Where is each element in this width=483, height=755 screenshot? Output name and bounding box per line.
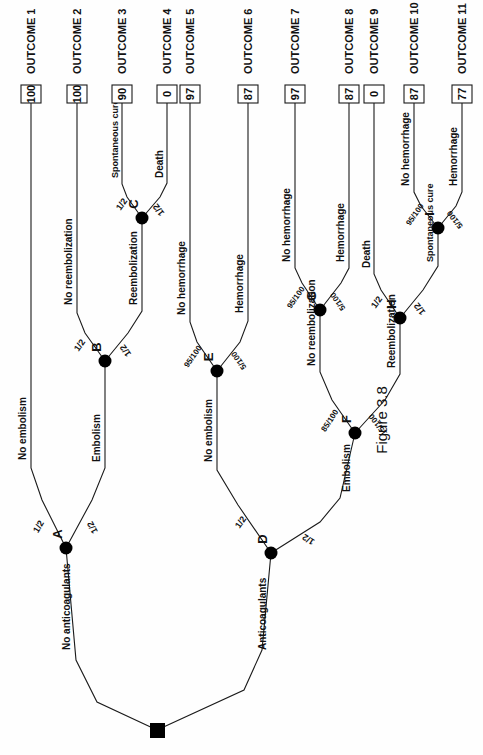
outcome-name: OUTCOME 7 (289, 9, 301, 74)
prob-H-left: 1/2 (369, 294, 384, 310)
branch-label-B-left: No reembolization (63, 218, 74, 305)
prob-D-right: 1/2 (300, 532, 316, 547)
prob-C-left: 1/2 (114, 196, 129, 212)
edge-root-A (66, 548, 157, 730)
outcome-value: 100 (25, 85, 37, 103)
outcome-name: OUTCOME 9 (368, 9, 380, 74)
edge-B-out2 (77, 103, 105, 361)
edge-E-out5 (190, 103, 217, 371)
node-label-C: C (126, 199, 141, 209)
decision-tree-figure: A B C D E F G H I No anticoagulants Anti… (0, 0, 483, 755)
prob-H-right: 1/2 (412, 301, 428, 317)
prob-B-right: 1/2 (118, 343, 133, 359)
tree-canvas: A B C D E F G H I No anticoagulants Anti… (0, 0, 483, 755)
branch-label-C-left: Spontaneous cure (110, 99, 120, 178)
node-label-F: F (339, 415, 354, 423)
outcome-value: 100 (71, 85, 83, 103)
outcome-name: OUTCOME 5 (184, 9, 196, 74)
outcome-name: OUTCOME 3 (116, 9, 128, 74)
branch-label-B-right: Reembolization (128, 231, 139, 305)
outcome-value: 90 (116, 88, 128, 100)
edge-G-out7 (295, 103, 320, 310)
edge-root-D (157, 553, 271, 730)
branch-label-D-left: No embolism (203, 399, 214, 462)
outcome-value: 97 (289, 88, 301, 100)
outcome-value: 87 (408, 88, 420, 100)
prob-F-left: 85/100 (319, 407, 340, 433)
prob-G-right: 5/100 (328, 290, 347, 312)
chance-node-B[interactable] (99, 355, 112, 368)
nodes-group (60, 212, 445, 739)
branch-label-E-right: Hemorrhage (234, 254, 245, 313)
outcome-value: 97 (184, 88, 196, 100)
outcome-names-group: OUTCOME 1 OUTCOME 2 OUTCOME 3 OUTCOME 4 … (25, 2, 468, 74)
outcome-name: OUTCOME 4 (161, 8, 173, 74)
branch-label-C-right: Death (154, 150, 165, 178)
chance-node-E[interactable] (211, 365, 224, 378)
figure-caption: Figure 3.8 (373, 386, 390, 454)
edge-E-out6 (217, 103, 248, 371)
prob-B-left: 1/2 (72, 337, 87, 353)
edge-A-out1 (31, 103, 66, 548)
prob-A-right: 1/2 (85, 520, 100, 536)
prob-A-left: 1/2 (31, 519, 46, 535)
outcome-name: OUTCOME 2 (71, 9, 83, 74)
branch-label-G-right: Hemorrhage (335, 203, 346, 262)
outcome-value: 0 (368, 91, 380, 97)
branch-label-A-left: No embolism (17, 397, 28, 460)
chance-node-A[interactable] (60, 542, 73, 555)
branch-label-E-left: No hemorrhage (176, 241, 187, 315)
branch-label-D-right: Embolism (341, 444, 352, 492)
node-label-E: E (201, 352, 216, 361)
node-label-D: D (255, 534, 270, 543)
node-label-A: A (50, 529, 65, 539)
outcome-name: OUTCOME 11 (456, 3, 468, 74)
outcome-name: OUTCOME 8 (343, 9, 355, 74)
branch-label-I-right: Hemorrhage (448, 127, 459, 186)
outcome-value: 77 (456, 88, 468, 100)
outcome-value: 0 (161, 91, 173, 97)
branch-labels-group: No anticoagulants Anticoagulants No embo… (17, 99, 459, 650)
branch-label-root-left: No anticoagulants (61, 563, 72, 650)
outcome-name: OUTCOME 6 (242, 9, 254, 74)
outcome-value: 87 (242, 88, 254, 100)
root-node[interactable] (150, 723, 165, 738)
branch-label-H-left: Death (361, 240, 372, 268)
chance-node-F[interactable] (349, 427, 362, 440)
node-labels-group: A B C D E F G H I (50, 199, 437, 544)
branch-label-A-right: Embolism (91, 414, 102, 462)
node-label-B: B (89, 342, 104, 351)
branch-label-root-right: Anticoagulants (257, 577, 268, 650)
outcome-name: OUTCOME 1 (25, 9, 37, 74)
chance-node-C[interactable] (136, 212, 149, 225)
branch-label-H-right: Spontaneous cure (425, 183, 435, 262)
branch-label-I-left: No hemorrhage (400, 112, 411, 186)
branch-label-G-left: No hemorrhage (281, 188, 292, 262)
outcome-name: OUTCOME 10 (408, 2, 420, 74)
chance-node-D[interactable] (265, 547, 278, 560)
edge-H-out9 (374, 103, 400, 318)
prob-I-right: 5/100 (445, 208, 465, 230)
branch-label-F-right: Reembolization (386, 294, 397, 368)
outcome-value: 87 (343, 88, 355, 100)
branch-label-F-left: No reembolization (306, 279, 317, 366)
